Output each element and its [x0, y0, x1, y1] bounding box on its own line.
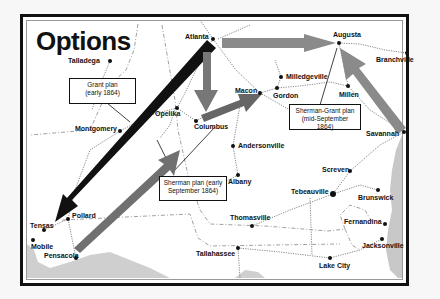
city-label-mobile: Mobile	[31, 243, 53, 250]
city-marker-lake-city	[328, 256, 332, 260]
city-label-columbus: Columbus	[194, 123, 228, 130]
city-label-opelika: Opelika	[155, 110, 180, 117]
page-title: Options	[36, 26, 131, 57]
city-label-tallahassee: Tallahassee	[196, 250, 235, 257]
city-marker-thomasville	[250, 224, 254, 228]
sherman-grant-arrow-augusta	[222, 34, 336, 52]
city-label-montgomery: Montgomery	[75, 125, 117, 132]
city-label-augusta: Augusta	[333, 31, 361, 38]
sherman-plan-callout: Sherman plan (early September 1864)	[159, 176, 227, 201]
city-marker-tebeauville	[330, 191, 336, 197]
city-label-tebeauville: Tebeauville	[291, 188, 329, 195]
sherman-grant-plan-callout: Sherman-Grant plan (mid-September 1864)	[289, 104, 361, 130]
city-marker-mobile	[31, 238, 35, 242]
city-label-gordon: Gordon	[273, 92, 298, 99]
city-label-branchville: Branchville	[376, 56, 414, 63]
city-marker-millen	[346, 84, 350, 88]
city-label-fernandina: Fernandina	[344, 218, 382, 225]
city-marker-milledgeville	[279, 75, 283, 79]
grant-plan-callout: Grant plan (early 1864)	[69, 78, 136, 104]
city-label-screven: Screven	[322, 166, 349, 173]
city-marker-albany	[236, 173, 240, 177]
city-label-pollard: Pollard	[72, 212, 96, 219]
city-marker-tallahassee	[236, 246, 240, 250]
city-marker-macon	[258, 91, 262, 95]
city-label-talladega: Talladega	[68, 57, 100, 64]
city-label-lake-city: Lake City	[319, 262, 350, 269]
city-label-macon: Macon	[235, 87, 257, 94]
city-marker-atlanta	[211, 37, 215, 41]
city-label-brunswick: Brunswick	[358, 194, 393, 201]
city-label-pensacola: Pensacola	[44, 252, 79, 259]
city-marker-gordon	[275, 86, 279, 90]
city-label-savannah: Savannah	[366, 130, 399, 137]
sherman-plan-callout-line1: Sherman plan (early	[163, 179, 223, 187]
city-marker-brunswick	[376, 188, 380, 192]
city-label-jacksonville: Jacksonville	[362, 242, 404, 249]
city-marker-montgomery	[118, 129, 122, 133]
city-label-millen: Millen	[339, 91, 359, 98]
city-label-albany: Albany	[228, 178, 251, 185]
sherman-plan-arrow-pensacola	[74, 150, 180, 253]
city-marker-pollard	[66, 217, 70, 221]
city-marker-savannah	[402, 130, 406, 134]
sherman-grant-plan-callout-line1: Sherman-Grant plan	[293, 107, 357, 115]
city-label-thomasville: Thomasville	[230, 214, 270, 221]
atlantic-coast	[386, 135, 402, 278]
sherman-plan-callout-line2: September 1864)	[163, 187, 223, 195]
city-label-tensas: Tensas	[30, 222, 54, 229]
city-marker-andersonville	[231, 144, 235, 148]
city-marker-augusta	[337, 41, 341, 45]
city-marker-fernandina	[383, 222, 387, 226]
city-label-milledgeville: Milledgeville	[286, 73, 328, 80]
city-label-andersonville: Andersonville	[238, 142, 284, 149]
grant-plan-callout-line1: Grant plan	[73, 81, 132, 89]
sherman-grant-plan-callout-line2: (mid-September 1864)	[293, 115, 357, 131]
city-marker-talladega	[108, 59, 112, 63]
city-marker-branchville	[405, 51, 409, 55]
city-label-atlanta: Atlanta	[185, 33, 209, 40]
grant-plan-callout-line2: (early 1864)	[73, 89, 132, 97]
city-marker-jacksonville	[380, 237, 384, 241]
